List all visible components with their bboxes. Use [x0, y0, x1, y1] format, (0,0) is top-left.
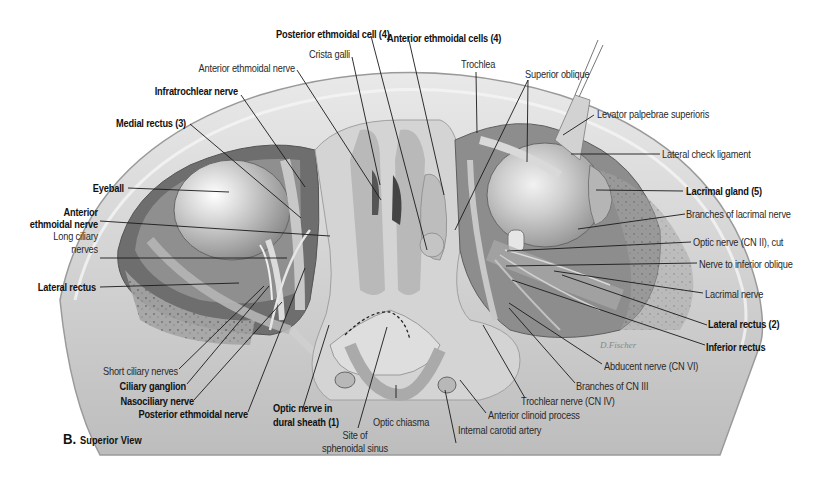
label-ciliary-ganglion: Ciliary ganglion	[102, 380, 186, 393]
label-lateral-rectus-left: Lateral rectus	[20, 281, 96, 294]
label-site-sphenoidal-2: sphenoidal sinus	[315, 442, 394, 455]
label-trochlear-nerve: Trochlear nerve (CN IV)	[521, 395, 615, 408]
label-short-ciliary-nerves: Short ciliary nerves	[83, 365, 178, 378]
label-site-sphenoidal-1: Site of	[324, 429, 386, 442]
label-nerve-inferior-oblique: Nerve to inferior oblique	[699, 258, 793, 271]
svg-text:D.Fischer: D.Fischer	[599, 340, 637, 350]
right-eyeball	[487, 143, 603, 247]
label-medial-rectus: Medial rectus (3)	[110, 117, 186, 130]
label-lacrimal-gland: Lacrimal gland (5)	[686, 185, 762, 198]
label-anterior-ethmoidal-nerve-top: Anterior ethmoidal nerve	[189, 62, 295, 75]
label-long-ciliary-nerves-1: Long ciliary	[29, 230, 98, 243]
label-lacrimal-nerve: Lacrimal nerve	[705, 288, 763, 301]
label-lateral-check-ligament: Lateral check ligament	[662, 148, 751, 161]
label-optic-nerve-dural-2: dural sheath (1)	[273, 416, 339, 429]
label-levator-palpebrae: Levator palpebrae superioris	[597, 108, 709, 121]
label-branches-lacrimal-nerve: Branches of lacrimal nerve	[686, 208, 791, 221]
label-internal-carotid-artery: Internal carotid artery	[458, 424, 541, 437]
label-anterior-ethmoidal-cells: Anterior ethmoidal cells (4)	[387, 32, 501, 45]
label-nasociliary-nerve: Nasociliary nerve	[102, 395, 194, 408]
label-branches-cn-iii: Branches of CN III	[576, 380, 648, 393]
label-anterior-clinoid-process: Anterior clinoid process	[488, 409, 580, 422]
label-trochlea: Trochlea	[461, 58, 495, 71]
panel-letter: B.	[63, 430, 76, 447]
label-inferior-rectus: Inferior rectus	[706, 341, 765, 354]
label-posterior-ethmoidal-nerve: Posterior ethmoidal nerve	[127, 408, 248, 421]
label-long-ciliary-nerves-2: nerves	[29, 243, 98, 256]
figure-caption: B. Superior View	[63, 430, 142, 448]
label-posterior-ethmoidal-cell: Posterior ethmoidal cell (4)	[276, 28, 378, 41]
label-optic-nerve-cut: Optic nerve (CN II), cut	[693, 236, 783, 249]
label-abducent-nerve: Abducent nerve (CN VI)	[604, 360, 698, 373]
label-infratrochlear-nerve: Infratrochlear nerve	[143, 85, 238, 98]
label-lateral-rectus-right: Lateral rectus (2)	[708, 318, 779, 331]
label-optic-nerve-dural-1: Optic nerve in	[273, 402, 332, 415]
label-crista-galli: Crista galli	[297, 48, 350, 61]
label-optic-chiasma: Optic chiasma	[373, 416, 429, 429]
label-superior-oblique: Superior oblique	[525, 68, 589, 81]
view-title: Superior View	[80, 434, 141, 446]
label-eyeball: Eyeball	[68, 182, 124, 195]
